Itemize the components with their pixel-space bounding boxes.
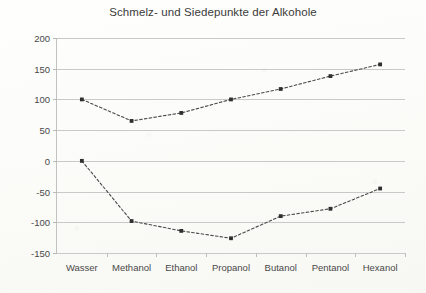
data-point-marker [80,98,84,102]
x-tick-label-pentanol: Pentanol [312,262,350,273]
y-tick-label: 200 [34,33,50,44]
x-tick-mark [206,253,207,257]
x-tick-label-methanol: Methanol [112,262,151,273]
y-tick-label: -100 [31,217,50,228]
x-tick-label-wasser: Wasser [66,262,98,273]
data-point-marker [329,74,333,78]
gridline--150 [57,253,405,254]
y-tick-mark [53,253,57,254]
x-tick-mark [156,253,157,257]
x-tick-label-hexanol: Hexanol [363,262,398,273]
data-point-marker [279,87,283,91]
x-tick-mark [256,253,257,257]
data-point-marker [378,187,382,191]
x-tick-label-ethanol: Ethanol [165,262,197,273]
data-point-marker [229,236,233,240]
plot-area: 200150100500-50-100-150 WasserMethanolEt… [57,38,405,253]
data-point-marker [179,229,183,233]
data-point-marker [130,119,134,123]
y-tick-label: 0 [45,155,50,166]
y-tick-label: 100 [34,94,50,105]
series-line-schmelzpunkt [82,161,380,238]
data-point-marker [329,207,333,211]
y-tick-label: 150 [34,63,50,74]
chart-title: Schmelz- und Siedepunkte der Alkohole [0,6,426,18]
data-point-marker [378,63,382,67]
y-tick-label: -50 [36,186,50,197]
series-group [57,38,405,253]
x-tick-mark [107,253,108,257]
chart-container: Schmelz- und Siedepunkte der Alkohole 20… [0,0,426,293]
x-tick-mark [405,253,406,257]
y-tick-label: 50 [39,125,50,136]
data-point-marker [229,98,233,102]
x-tick-label-butanol: Butanol [265,262,297,273]
data-point-marker [179,111,183,115]
data-point-marker [130,219,134,223]
x-tick-mark [355,253,356,257]
data-point-marker [80,159,84,163]
y-tick-label: -150 [31,248,50,259]
data-point-marker [279,214,283,218]
x-tick-mark [306,253,307,257]
series-line-siedepunkt [82,64,380,121]
x-tick-label-propanol: Propanol [212,262,250,273]
